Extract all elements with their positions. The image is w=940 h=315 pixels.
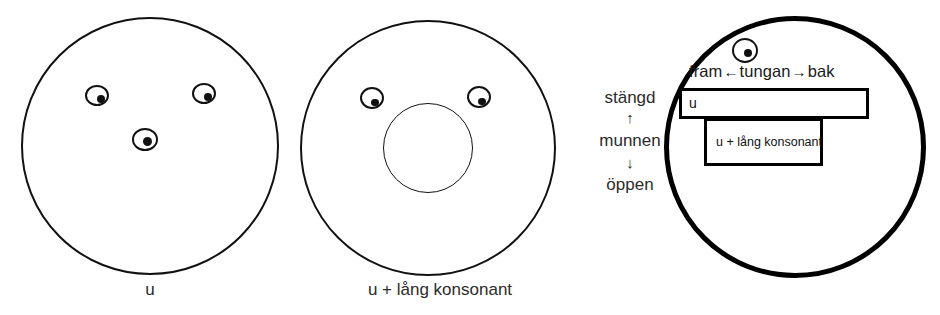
tongue-axis-bak: bak <box>808 62 835 80</box>
panel-caption-u-lang-konsonant: u + lång konsonant <box>280 280 600 300</box>
panel-u: u <box>0 0 300 315</box>
mouth-opening-circle <box>383 103 473 193</box>
marker-dot <box>478 98 486 106</box>
phonetics-figure: u u + lång konsonant stängd ↑ munnen ↓ ö… <box>0 0 940 315</box>
vowel-range-box-u-lang-konsonant: u + lång konsonant <box>704 118 823 166</box>
axis-label-stangd: stängd <box>590 88 670 107</box>
axis-label-munnen: munnen <box>584 131 676 150</box>
marker-dot <box>204 93 212 101</box>
vowel-range-box-u-label: u <box>689 95 697 112</box>
panel-vowel-space: stängd ↑ munnen ↓ öppen fram←tungan→bak … <box>580 0 940 315</box>
tongue-axis-fram: fram <box>689 62 722 80</box>
tongue-position-marker-top <box>732 38 758 63</box>
tongue-position-marker-center <box>132 128 158 151</box>
axis-arrow-up-icon: ↑ <box>590 110 670 125</box>
tongue-position-marker-upper-right <box>467 86 491 108</box>
arrow-right-icon: → <box>791 63 808 80</box>
axis-label-oppen: öppen <box>590 175 670 194</box>
tongue-position-marker-upper-left <box>360 87 384 109</box>
axis-arrow-down-icon: ↓ <box>590 155 670 170</box>
marker-dot <box>143 137 152 146</box>
tongue-position-marker-upper-left <box>85 85 109 106</box>
vowel-range-box-u-lang-konsonant-label: u + lång konsonant <box>716 135 822 150</box>
tongue-axis-tungan: tungan <box>740 62 791 80</box>
marker-dot <box>744 49 752 57</box>
panel-caption-u: u <box>0 280 300 300</box>
panel-u-lang-konsonant: u + lång konsonant <box>300 0 580 315</box>
arrow-left-icon: ← <box>722 63 739 80</box>
tongue-position-marker-upper-right <box>192 83 216 104</box>
marker-dot <box>97 95 105 103</box>
vowel-range-box-u: u <box>679 88 869 119</box>
tongue-axis-row: fram←tungan→bak <box>689 62 835 81</box>
marker-dot <box>371 99 379 107</box>
